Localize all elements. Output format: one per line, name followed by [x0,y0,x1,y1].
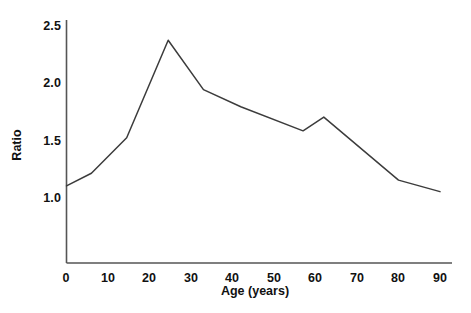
y-tick-label-1-0: 1.0 [43,191,61,205]
axes-group [67,20,453,263]
x-tick-label-70: 70 [350,271,364,285]
y-tick-label-1-5: 1.5 [43,134,61,148]
data-series-group [67,40,441,191]
x-tick-label-80: 80 [391,271,405,285]
x-tick-label-90: 90 [433,271,447,285]
x-tick-label-10: 10 [101,271,115,285]
x-tick-label-20: 20 [142,271,156,285]
x-tick-label-50: 50 [267,271,281,285]
y-axis-title: Ratio [10,129,24,160]
ratio-vs-age-line-chart: 2.5 2.0 1.5 1.0 0 10 20 30 40 50 60 70 8… [0,0,471,313]
x-tick-label-0: 0 [62,271,69,285]
x-tick-label-60: 60 [308,271,322,285]
y-tick-label-2-0: 2.0 [43,76,61,90]
x-tick-label-40: 40 [225,271,239,285]
x-tick-label-30: 30 [184,271,198,285]
series-line-ratio [67,40,441,191]
y-tick-label-2-5: 2.5 [43,19,61,33]
x-axis-title: Age (years) [221,284,289,298]
plot-area [0,0,471,313]
